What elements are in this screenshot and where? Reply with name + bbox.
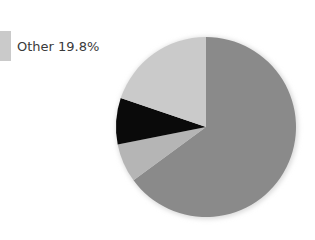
pie-slices <box>116 37 296 217</box>
legend-label-other: Other 19.8% <box>17 39 99 54</box>
legend: Other 19.8% <box>0 31 99 61</box>
legend-swatch-other <box>0 31 11 61</box>
